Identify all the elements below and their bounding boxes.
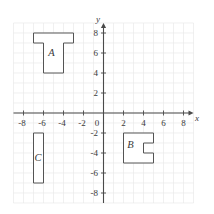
y-tick-label: 6 [94,48,99,58]
x-tick-label: 0 [95,118,100,128]
x-tick-label: -6 [38,118,46,128]
x-tick-label: 6 [161,118,166,128]
y-axis-label: y [95,14,100,24]
y-tick-label: -8 [91,188,99,198]
x-tick-label: 4 [141,118,146,128]
x-tick-label: 2 [121,118,126,128]
x-axis-label: x [194,113,199,123]
y-tick-label: -6 [91,168,99,178]
y-tick-label: -2 [91,128,99,138]
y-tick-label: 4 [94,68,99,78]
x-axis-arrow-icon [189,110,194,115]
shape-C-label: C [34,152,42,163]
y-tick-label: 2 [94,88,99,98]
x-tick-label: 8 [181,118,186,128]
plot-svg: -8-6-4-2024688642-2-4-6-8xyABC [0,0,214,214]
x-tick-label: -2 [78,118,86,128]
y-tick-label: 8 [94,28,99,38]
y-tick-label: -4 [91,148,99,158]
coordinate-plane-figure: -8-6-4-2024688642-2-4-6-8xyABC [0,0,214,214]
shape-A-label: A [47,47,55,58]
x-tick-label: -4 [58,118,66,128]
shape-B-label: B [127,139,134,150]
x-tick-label: -8 [18,118,26,128]
y-axis-arrow-icon [101,23,106,28]
